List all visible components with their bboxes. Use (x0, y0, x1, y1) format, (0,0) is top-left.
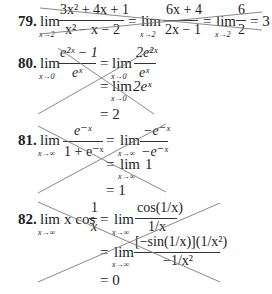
lim-operator: lim (120, 156, 140, 173)
numerator: [−sin(1/x)](1/x²) (135, 234, 227, 250)
equals: = (128, 13, 136, 30)
equals: = (100, 55, 108, 72)
problem-number: 80. (18, 55, 37, 72)
numerator: e⁻ˣ (74, 122, 92, 139)
lim-subscript: x→2 (140, 30, 156, 39)
lim-operator: lim (40, 132, 60, 149)
lim-operator: lim (114, 211, 134, 228)
lim-subscript: x→∞ (38, 149, 55, 158)
numerator: 3x² + 4x + 1 (60, 2, 129, 18)
numerator: cos(1/x) (137, 200, 183, 216)
lim-operator: lim (112, 78, 132, 95)
lim-operator: lim (141, 13, 161, 30)
lim-subscript: x→2 (39, 30, 55, 39)
equals: = (106, 132, 114, 149)
lim-operator: lim (114, 244, 134, 261)
fraction-bar (58, 20, 124, 21)
lim-subscript: x→0 (111, 94, 127, 103)
fraction-bar (63, 141, 103, 142)
lim-operator: lim (40, 55, 60, 72)
equals: = (100, 244, 108, 261)
lim-operator: lim (40, 211, 60, 228)
numerator: 6x + 4 (166, 2, 202, 18)
lim-operator: lim (120, 132, 140, 149)
expression: 2eˣ (133, 78, 151, 95)
lim-operator: lim (216, 13, 236, 30)
lim-subscript: x→0 (39, 72, 55, 81)
denominator: 2 (238, 22, 245, 38)
problem-number: 79. (18, 13, 37, 30)
result: = 0 (100, 272, 120, 289)
denominator: 1/x (148, 219, 166, 235)
fraction-bar (140, 141, 168, 142)
lim-subscript: x→∞ (38, 228, 55, 237)
fraction-bar (164, 20, 198, 21)
lim-operator: lim (40, 13, 60, 30)
problem-number: 81. (18, 132, 37, 149)
numerator: 6 (238, 2, 245, 18)
lim-subscript: x→∞ (112, 228, 129, 237)
problem-number: 82. (18, 211, 37, 228)
numerator: −e⁻ˣ (143, 122, 170, 139)
equals: = (203, 13, 211, 30)
fraction-bar (58, 63, 96, 64)
numerator: e²ˣ − 1 (60, 45, 98, 61)
numerator: 1 (91, 200, 98, 216)
denominator: 1 + e⁻ˣ (64, 143, 104, 160)
denominator: −1/x² (163, 253, 193, 269)
denominator: x² − x − 2 (65, 22, 120, 38)
equals: = (100, 211, 108, 228)
lim-subscript: x→2 (215, 30, 231, 39)
lim-subscript: x→∞ (118, 172, 135, 181)
numerator: 2e²ˣ (136, 45, 157, 61)
equals: = (100, 78, 108, 95)
result: = 3 (250, 13, 270, 30)
lim-operator: lim (112, 55, 132, 72)
fraction-bar (236, 20, 246, 21)
denominator: 2x − 1 (165, 22, 201, 38)
denominator: x (91, 219, 97, 235)
expression: 1 (145, 156, 153, 173)
fraction-bar (134, 63, 156, 64)
lim-subscript: x→∞ (112, 260, 129, 269)
result: = 2 (100, 106, 120, 123)
equals: = (106, 156, 114, 173)
result: = 1 (106, 182, 126, 199)
denominator: eˣ (72, 65, 82, 81)
